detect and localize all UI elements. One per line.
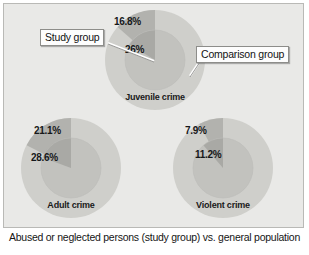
chart-caption: Abused or neglected persons (study group… xyxy=(0,231,309,243)
leader-line-comparison-highlight xyxy=(190,61,200,76)
leader-line-study xyxy=(108,44,154,62)
leader-line-study-highlight xyxy=(108,43,154,61)
callout-study-group: Study group xyxy=(40,29,104,46)
chart-figure: Juvenile crime 16.8% 26% Adult crime 21.… xyxy=(0,0,309,255)
leader-line-comparison xyxy=(190,62,200,77)
chart-panel: Juvenile crime 16.8% 26% Adult crime 21.… xyxy=(3,3,304,228)
callout-comparison-group: Comparison group xyxy=(196,46,289,63)
